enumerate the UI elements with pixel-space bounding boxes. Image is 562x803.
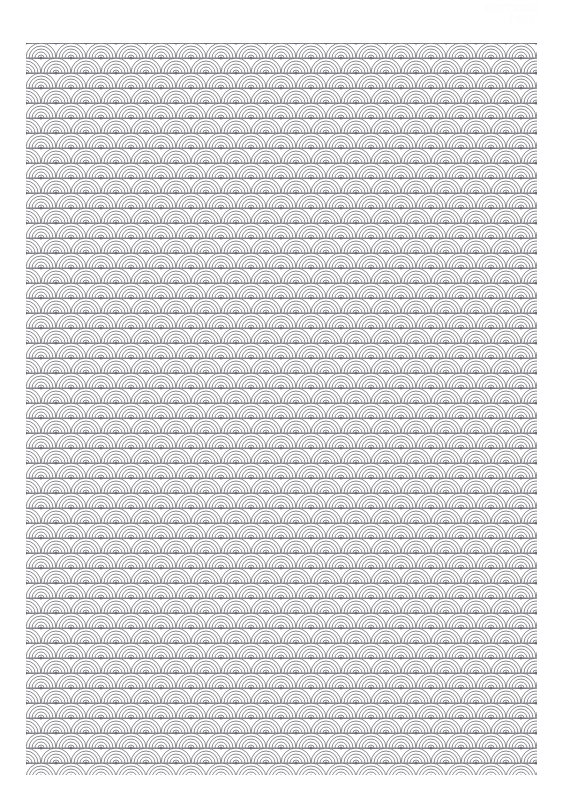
watermark-line-1: PATTERN — [484, 3, 538, 15]
document-page: PATTERN PAGE — [0, 0, 562, 803]
corner-watermark: PATTERN PAGE — [438, 0, 538, 28]
seigaiha-pattern-artwork — [26, 43, 537, 775]
seigaiha-pattern-svg — [26, 43, 537, 775]
watermark-line-2: PAGE — [509, 15, 538, 26]
